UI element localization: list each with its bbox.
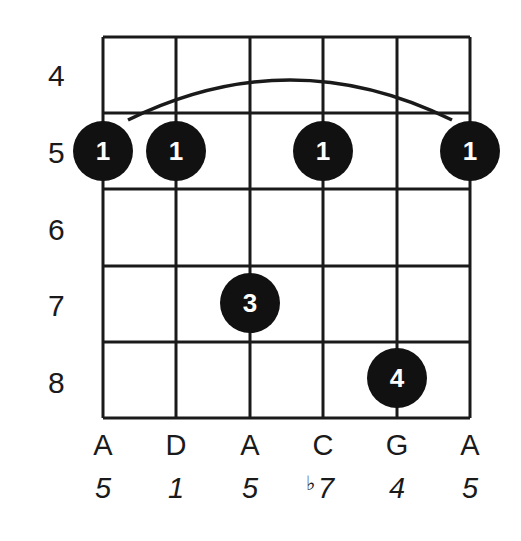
svg-text:1: 1 [316, 136, 330, 166]
finger-dot-string3-fret7: 3 [220, 273, 280, 333]
note-label: D [166, 429, 187, 461]
interval-label: 5 [462, 472, 479, 504]
finger-dot-string1-fret5: 1 [73, 121, 133, 181]
fret-label-8: 8 [48, 366, 65, 399]
note-label: C [313, 429, 334, 461]
flat-symbol: ♭ [306, 472, 315, 494]
note-label: A [460, 429, 480, 461]
interval-labels: 5 1 5 ♭ 7 4 5 [95, 472, 479, 504]
fret-label-4: 4 [48, 59, 65, 92]
interval-label: 4 [389, 472, 405, 504]
interval-label: 7 [318, 472, 336, 504]
chord-diagram: 4 5 6 7 8 1 1 1 [0, 0, 521, 541]
note-labels: A D A C G A [93, 429, 480, 461]
svg-text:1: 1 [96, 136, 110, 166]
note-label: A [240, 429, 260, 461]
note-label: A [93, 429, 113, 461]
finger-dot-string6-fret5: 1 [440, 121, 500, 181]
svg-text:1: 1 [463, 136, 477, 166]
finger-dot-string2-fret5: 1 [146, 121, 206, 181]
finger-dot-string4-fret5: 1 [293, 121, 353, 181]
svg-text:1: 1 [169, 136, 183, 166]
fret-label-7: 7 [48, 289, 65, 322]
svg-text:3: 3 [243, 288, 257, 318]
fret-label-6: 6 [48, 213, 65, 246]
interval-label: 5 [242, 472, 259, 504]
fret-label-5: 5 [48, 136, 65, 169]
note-label: G [386, 429, 409, 461]
interval-label: 5 [95, 472, 112, 504]
finger-dot-string5-fret8: 4 [367, 348, 427, 408]
svg-text:4: 4 [390, 363, 405, 393]
interval-label: 1 [168, 472, 184, 504]
fret-labels: 4 5 6 7 8 [48, 59, 65, 399]
